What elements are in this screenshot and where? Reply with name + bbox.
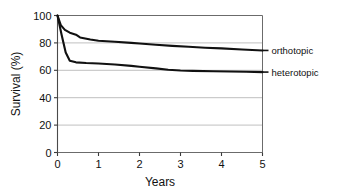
y-tick-label-40: 40 — [39, 92, 51, 104]
series-label-heterotopic: heterotopic — [272, 67, 319, 78]
series-line-heterotopic — [58, 16, 263, 73]
survival-curve-plot: 020406080100012345YearsSurvival (%)ortho… — [0, 0, 343, 191]
y-tick-label-100: 100 — [33, 10, 51, 22]
x-tick-label-4: 4 — [218, 158, 224, 170]
y-tick-label-0: 0 — [45, 147, 51, 159]
survival-chart-figure: 020406080100012345YearsSurvival (%)ortho… — [0, 0, 343, 191]
x-tick-label-3: 3 — [177, 158, 183, 170]
series-label-orthotopic: orthotopic — [272, 45, 314, 56]
y-axis-title: Survival (%) — [9, 52, 23, 117]
y-tick-label-60: 60 — [39, 64, 51, 76]
x-tick-label-5: 5 — [259, 158, 265, 170]
x-tick-label-0: 0 — [54, 158, 60, 170]
x-axis-title: Years — [145, 175, 175, 189]
x-tick-label-2: 2 — [136, 158, 142, 170]
series-line-orthotopic — [58, 16, 263, 51]
x-tick-label-1: 1 — [95, 158, 101, 170]
y-tick-label-20: 20 — [39, 119, 51, 131]
y-tick-label-80: 80 — [39, 37, 51, 49]
